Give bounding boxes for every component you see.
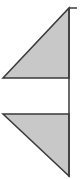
upper-shaded-triangle: [3, 8, 69, 78]
lower-shaded-triangle: [3, 114, 69, 176]
triangle-diagram: [0, 0, 83, 179]
